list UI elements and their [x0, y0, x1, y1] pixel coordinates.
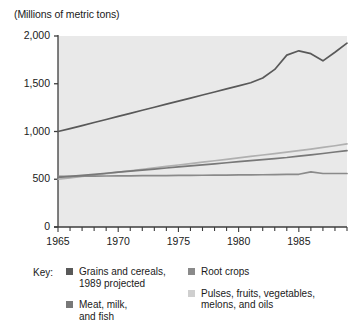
legend-entry: Pulses, fruits, vegetables, melons, and …: [188, 288, 355, 311]
chart-container: (Millions of metric tons) 05001,0001,500…: [0, 0, 355, 324]
legend-key-label: Key:: [33, 267, 53, 279]
y-axis-tick-label: 1,000: [6, 125, 50, 137]
legend-entry: Root crops: [188, 266, 355, 278]
legend-swatch-icon: [66, 268, 73, 275]
legend-swatch-icon: [188, 268, 195, 275]
legend-swatch-icon: [66, 301, 73, 308]
x-axis-tick-label: 1975: [157, 235, 199, 247]
y-axis-tick-label: 0: [6, 220, 50, 232]
legend-label: Meat, milk, and fish: [79, 299, 186, 322]
x-axis-tick-label: 1980: [218, 235, 260, 247]
legend-label: Root crops: [201, 266, 355, 278]
legend-column-right: Root cropsPulses, fruits, vegetables, me…: [188, 266, 355, 321]
plot-background: [58, 36, 347, 227]
legend-column-left: Grains and cereals, 1989 projectedMeat, …: [66, 266, 186, 324]
legend-label: Grains and cereals, 1989 projected: [79, 266, 186, 289]
y-axis-tick-label: 2,000: [6, 29, 50, 41]
x-axis-ticks: [58, 227, 347, 232]
y-axis-tick-label: 500: [6, 172, 50, 184]
x-axis-tick-label: 1970: [97, 235, 139, 247]
x-axis-tick-label: 1985: [278, 235, 320, 247]
legend-entry: Meat, milk, and fish: [66, 299, 186, 322]
legend-entry: Grains and cereals, 1989 projected: [66, 266, 186, 289]
legend-swatch-icon: [188, 290, 195, 297]
legend-label: Pulses, fruits, vegetables, melons, and …: [201, 288, 355, 311]
x-axis-tick-label: 1965: [37, 235, 79, 247]
y-axis-tick-label: 1,500: [6, 77, 50, 89]
